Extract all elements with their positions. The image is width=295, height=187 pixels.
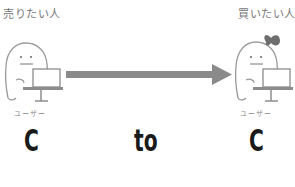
- connector-text: to: [134, 126, 158, 156]
- buyer-letter: C: [249, 126, 264, 156]
- right-arrow-icon: [66, 62, 234, 88]
- buyer-title: 買いたい人: [238, 5, 295, 21]
- seller-letter: C: [24, 126, 39, 156]
- seller-role-label: ユーザー: [14, 108, 46, 118]
- seller-title: 売りたい人: [3, 5, 61, 21]
- buyer-ghost-with-bow-at-laptop-icon: [230, 28, 295, 106]
- seller-ghost-at-laptop-icon: [2, 38, 64, 106]
- buyer-role-label: ユーザー: [240, 108, 272, 118]
